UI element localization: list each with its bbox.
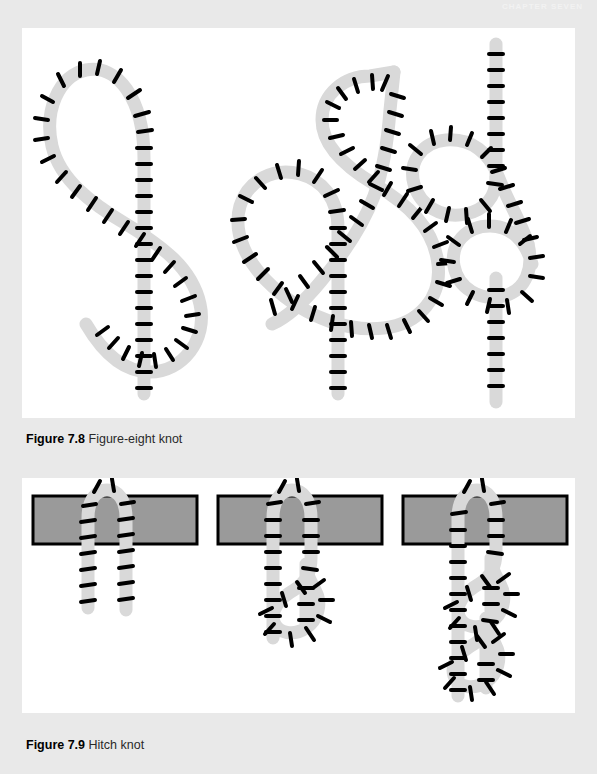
hitch-step-3: [403, 479, 567, 700]
figure-eight-illustration: [22, 28, 575, 418]
hitch-step-1: [33, 479, 197, 610]
figure-eight-step-1: [35, 61, 201, 394]
page-canvas: CHAPTER SEVEN: [0, 0, 597, 774]
hitch-illustration: [22, 478, 575, 713]
rope-twist-marks: [232, 75, 451, 388]
figure-7-8-title: Figure-eight knot: [89, 432, 183, 446]
hitch-panel: [22, 478, 575, 713]
rail-bar-1: [33, 496, 197, 544]
figure-7-8-caption: Figure 7.8 Figure-eight knot: [26, 432, 182, 446]
rail-bar-3: [403, 496, 567, 544]
figure-7-8-label: Figure 7.8: [26, 432, 85, 446]
figure-7-9-label: Figure 7.9: [26, 738, 85, 752]
figure-7-9-title: Hitch knot: [89, 738, 145, 752]
figure-eight-step-2: [232, 72, 451, 394]
rail-bar-2: [218, 496, 382, 544]
figure-eight-panel: [22, 28, 575, 418]
hitch-step-2: [218, 479, 382, 646]
running-head: CHAPTER SEVEN: [502, 2, 583, 11]
figure-7-9-caption: Figure 7.9 Hitch knot: [26, 738, 144, 752]
